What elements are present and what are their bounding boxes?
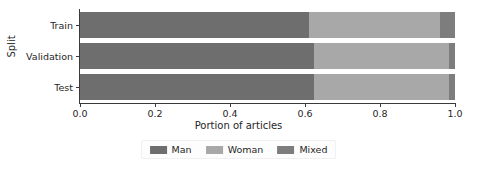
legend-label: Woman — [228, 144, 264, 155]
bar-chart-figure: Split TrainValidationTest 0.00.20.40.60.… — [0, 0, 477, 169]
y-tick-label: Validation — [26, 51, 73, 62]
bar-segment — [80, 43, 314, 69]
x-axis-title: Portion of articles — [0, 120, 477, 131]
bar-row — [80, 43, 455, 69]
bar-segment — [440, 12, 455, 38]
y-tick-mark — [76, 25, 79, 26]
x-tick-mark — [305, 104, 306, 107]
y-tick-mark — [76, 56, 79, 57]
bar-row — [80, 74, 455, 100]
legend-entry[interactable]: Woman — [206, 144, 264, 155]
y-tick-label: Train — [50, 19, 73, 30]
bar-segment — [449, 43, 455, 69]
y-tick-label: Test — [54, 82, 73, 93]
bar-segment — [80, 74, 314, 100]
x-tick-mark — [455, 104, 456, 107]
bar-segment — [449, 74, 455, 100]
plot-area — [80, 9, 455, 103]
legend-label: Man — [172, 144, 192, 155]
bar-segment — [314, 74, 449, 100]
x-tick-label: 1.0 — [447, 108, 462, 119]
legend-swatch-icon — [206, 146, 223, 154]
x-axis-spine — [79, 103, 456, 104]
legend-swatch-icon — [277, 146, 294, 154]
bar-segment — [80, 12, 309, 38]
y-tick-mark — [76, 87, 79, 88]
x-tick-label: 0.6 — [297, 108, 312, 119]
x-tick-label: 0.2 — [147, 108, 162, 119]
x-tick-label: 0.0 — [72, 108, 87, 119]
bar-segment — [309, 12, 440, 38]
legend-swatch-icon — [150, 146, 167, 154]
bar-segment — [314, 43, 449, 69]
legend-entry[interactable]: Man — [150, 144, 192, 155]
x-tick-label: 0.4 — [222, 108, 237, 119]
chart-legend: ManWomanMixed — [141, 140, 337, 159]
x-tick-mark — [155, 104, 156, 107]
y-axis-title: Split — [6, 17, 17, 77]
x-tick-mark — [230, 104, 231, 107]
bar-row — [80, 12, 455, 38]
x-tick-label: 0.8 — [372, 108, 387, 119]
legend-label: Mixed — [299, 144, 327, 155]
legend-entry[interactable]: Mixed — [277, 144, 327, 155]
x-tick-mark — [380, 104, 381, 107]
x-tick-mark — [80, 104, 81, 107]
